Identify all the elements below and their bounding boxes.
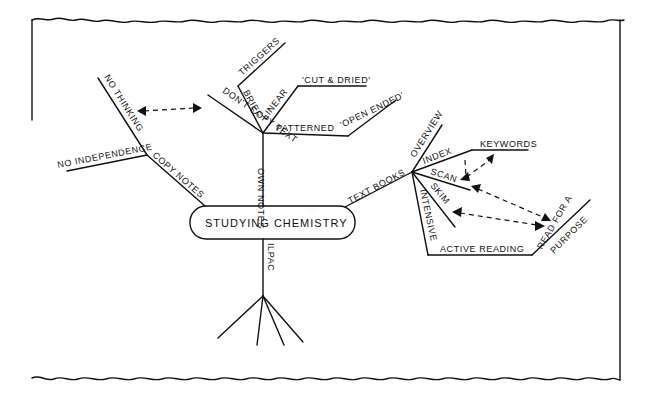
label-skim: SKIM <box>428 181 451 206</box>
label-intensive: INTENSIVE <box>418 188 439 242</box>
branch-ilpac: ILPAC <box>218 239 303 345</box>
branch-copy-notes: COPY NOTES NO THINKING NO INDEPENDENCE <box>56 73 206 206</box>
arrowhead-icon <box>486 154 494 164</box>
arrowhead-icon <box>193 103 202 113</box>
label-copy-notes: COPY NOTES <box>151 150 207 200</box>
central-node: STUDYING CHEMISTRY <box>190 206 355 239</box>
label-keywords: KEYWORDS <box>480 139 537 149</box>
link-scan-read-for-purpose <box>478 189 545 218</box>
link-skim-read-for-purpose <box>460 213 537 225</box>
mind-map-canvas: STUDYING CHEMISTRY COPY NOTES NO THINKIN… <box>0 0 652 398</box>
paper-frame <box>32 18 624 380</box>
label-text-books: TEXT BOOKS <box>346 167 407 206</box>
label-own-notes: OWN NOTES <box>256 168 266 229</box>
arrowhead-icon <box>137 106 146 116</box>
label-patterned: PATTERNED <box>276 123 335 133</box>
label-ilpac: ILPAC <box>266 243 276 271</box>
arrowhead-icon <box>452 207 462 217</box>
label-no-thinking: NO THINKING <box>102 73 145 134</box>
branch-own-notes: OWN NOTES DON'T COPY TEXT BRIEF TRIGGERS… <box>208 35 406 229</box>
link-no-thinking-dont-copy <box>144 108 194 111</box>
central-node-label: STUDYING CHEMISTRY <box>205 217 347 229</box>
label-active-reading: ACTIVE READING <box>440 244 524 254</box>
label-open-ended: 'OPEN ENDED' <box>338 90 405 130</box>
arrowhead-icon <box>471 184 481 193</box>
branch-text-books: TEXT BOOKS OVERVIEW INDEX KEYWORDS SCAN … <box>345 109 590 256</box>
arrowhead-icon <box>460 172 470 181</box>
label-triggers: TRIGGERS <box>237 35 282 77</box>
arrowhead-icon <box>541 213 551 221</box>
link-keywords-scan <box>465 160 466 175</box>
label-cut-dried: 'CUT & DRIED' <box>302 75 371 85</box>
label-no-independence: NO INDEPENDENCE <box>56 142 153 170</box>
